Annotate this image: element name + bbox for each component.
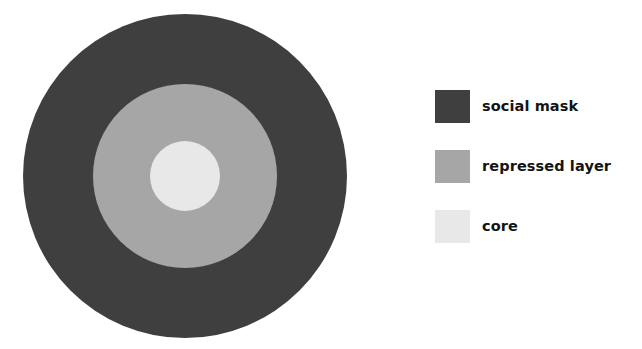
legend-label-repressed-layer: repressed layer <box>482 150 611 183</box>
ring-core <box>150 141 220 211</box>
legend-swatch-social-mask <box>435 90 470 123</box>
concentric-layers-diagram <box>0 0 420 349</box>
legend-item-core: core <box>435 210 518 243</box>
legend-label-social-mask: social mask <box>482 90 578 123</box>
legend-item-repressed-layer: repressed layer <box>435 150 611 183</box>
legend-label-core: core <box>482 210 518 243</box>
legend: social mask repressed layer core <box>435 0 642 349</box>
figure-canvas: social mask repressed layer core <box>0 0 642 349</box>
legend-swatch-core <box>435 210 470 243</box>
legend-swatch-repressed-layer <box>435 150 470 183</box>
legend-item-social-mask: social mask <box>435 90 578 123</box>
